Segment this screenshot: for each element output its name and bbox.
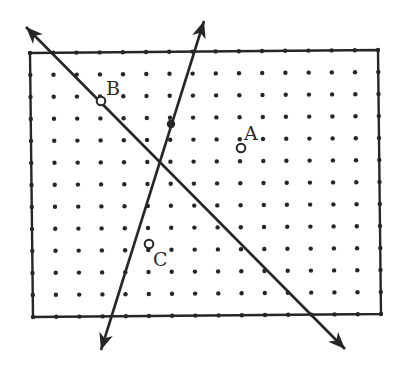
grid-dot — [330, 70, 334, 74]
grid-dot — [332, 246, 336, 250]
grid-dot — [237, 71, 241, 75]
grid-dot — [308, 224, 312, 228]
grid-dot — [355, 246, 359, 250]
grid-dot — [193, 269, 197, 273]
grid-dot — [168, 160, 172, 164]
grid-dot — [191, 93, 195, 97]
grid-dot — [307, 114, 311, 118]
grid-dot — [284, 115, 288, 119]
grid-dot — [285, 247, 289, 251]
grid-dot — [76, 182, 80, 186]
grid-dot — [215, 181, 219, 185]
grid-dot — [332, 290, 336, 294]
grid-dot — [52, 161, 56, 165]
grid-dot — [100, 292, 104, 296]
grid-dot — [98, 138, 102, 142]
grid-dot — [238, 181, 242, 185]
line-through-b — [26, 27, 345, 349]
lines — [26, 21, 345, 350]
grid-dot — [285, 225, 289, 229]
grid-dot — [146, 270, 150, 274]
grid-dot — [52, 117, 56, 121]
grid-dot — [307, 92, 311, 96]
grid-dot — [54, 271, 58, 275]
grid-dot — [237, 93, 241, 97]
grid-dot — [216, 291, 220, 295]
grid-dot — [214, 137, 218, 141]
grid-dot — [238, 159, 242, 163]
grid-dot — [147, 292, 151, 296]
grid-dot — [75, 138, 79, 142]
grid-dot — [99, 182, 103, 186]
grid-dot — [100, 270, 104, 274]
point-c-marker — [145, 240, 154, 249]
grid-dot — [330, 136, 334, 140]
grid-dot — [53, 249, 57, 253]
grid-dot — [239, 225, 243, 229]
grid-dot — [216, 269, 220, 273]
grid-dot — [146, 226, 150, 230]
label-c: C — [153, 248, 168, 270]
grid-dot — [214, 93, 218, 97]
grid-dot — [123, 292, 127, 296]
grid-dot — [169, 248, 173, 252]
line-through-b-segment — [26, 27, 345, 349]
grid-dot — [260, 71, 264, 75]
grid-dot — [261, 181, 265, 185]
grid-dot — [144, 72, 148, 76]
grid-dot — [261, 137, 265, 141]
label-a: A — [243, 122, 258, 144]
grid-dot — [216, 247, 220, 251]
grid-dot — [215, 225, 219, 229]
point-labels: A B C — [106, 77, 258, 270]
grid-dot — [215, 203, 219, 207]
grid-dot — [331, 180, 335, 184]
grid-dot — [190, 71, 194, 75]
grid-dot — [75, 94, 79, 98]
grid-dot — [77, 248, 81, 252]
grid-dot — [284, 137, 288, 141]
grid-dot — [99, 160, 103, 164]
grid-dot — [308, 202, 312, 206]
grid-dot — [52, 95, 56, 99]
grid-dot — [170, 292, 174, 296]
grid-dot — [191, 115, 195, 119]
grid-dot — [76, 226, 80, 230]
grid-dot — [52, 139, 56, 143]
grid-dot — [215, 159, 219, 163]
point-b-marker — [97, 97, 106, 106]
grid-dot — [286, 269, 290, 273]
grid-dot — [77, 270, 81, 274]
grid-dot — [263, 291, 267, 295]
grid-dot — [76, 160, 80, 164]
grid-dot — [284, 159, 288, 163]
grid-dot — [145, 182, 149, 186]
grid-dot — [330, 114, 334, 118]
grid-dot — [331, 202, 335, 206]
grid-dot — [309, 290, 313, 294]
grid-dot — [331, 224, 335, 228]
point-a-marker — [237, 144, 246, 153]
grid-dot — [283, 71, 287, 75]
point-on-steep-line — [167, 120, 175, 128]
grid-dot — [54, 293, 58, 297]
grid-dot — [169, 182, 173, 186]
grid-dot — [76, 204, 80, 208]
grid-dot — [122, 204, 126, 208]
grid-dot — [167, 72, 171, 76]
grid-dot — [309, 246, 313, 250]
grid-dot — [214, 71, 218, 75]
grid-dot — [169, 204, 173, 208]
grid-dot — [51, 73, 55, 77]
grid-dot — [239, 269, 243, 273]
grid-dot — [99, 204, 103, 208]
grid-dot — [354, 136, 358, 140]
grid-dot — [261, 159, 265, 163]
grid-dot — [355, 224, 359, 228]
grid-dot — [53, 227, 57, 231]
grid-dot — [53, 183, 57, 187]
grid-dot — [77, 292, 81, 296]
grid-dot — [260, 93, 264, 97]
dot-grid-diagram: A B C — [0, 0, 409, 378]
grid-dot — [284, 93, 288, 97]
